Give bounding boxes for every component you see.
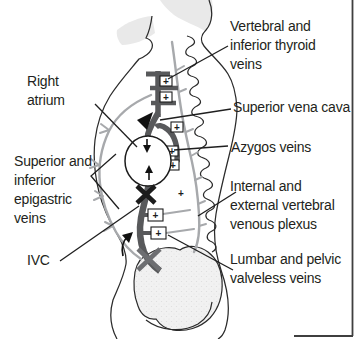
label-vertebral-inferior-thyroid-veins: Vertebral and inferior thyroid veins: [230, 17, 316, 74]
lumbar-to-plexus-connectors: [163, 210, 194, 233]
label-epigastric-veins: Superior and inferior epigastric veins: [14, 152, 92, 228]
plexus-branch-ticks: [177, 66, 206, 226]
valve-plus-icon: +: [163, 76, 169, 87]
leader-azygos: [174, 146, 228, 150]
valve-plus-icon: +: [156, 228, 162, 239]
label-superior-vena-cava: Superior vena cava: [233, 98, 350, 117]
valve-plus-icon: +: [163, 92, 169, 103]
epigastric-branch-ticks: [90, 124, 113, 231]
figure-canvas: + + + + + + + +: [0, 0, 361, 339]
valve-plus-icon: +: [174, 122, 180, 133]
valve-plus-icon: +: [178, 188, 184, 199]
label-lumbar-pelvic-valveless-veins: Lumbar and pelvic valveless veins: [230, 250, 341, 288]
occiput-shade: [160, 0, 213, 31]
leader-right-atrium: [95, 104, 137, 147]
label-ivc: IVC: [27, 251, 50, 270]
label-vertebral-venous-plexus: Internal and external vertebral venous p…: [230, 177, 335, 234]
spine-wavy-line: [186, 36, 216, 252]
leader-svc: [160, 109, 231, 120]
label-azygos-veins: Azygos veins: [231, 138, 311, 157]
label-right-atrium: Right atrium: [27, 72, 65, 110]
right-atrium-shape: [125, 136, 171, 186]
valve-plus-icon: +: [153, 210, 159, 221]
